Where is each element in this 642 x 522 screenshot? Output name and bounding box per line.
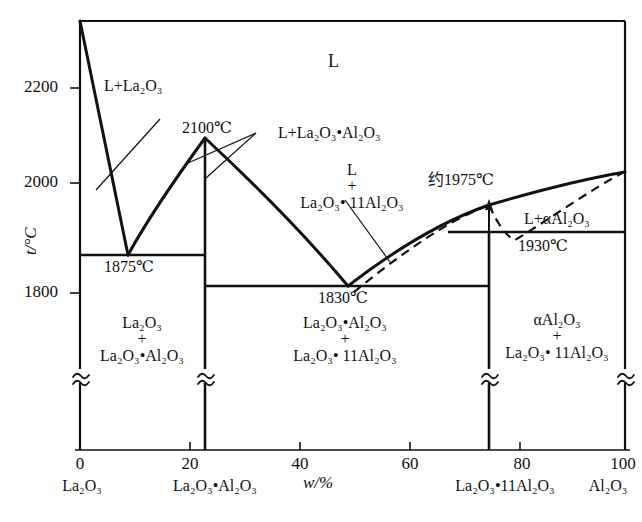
y-tick-label-2200: 2200 <box>24 78 58 95</box>
leader-l-plus-la2o3 <box>96 119 160 190</box>
x-tick-label-80: 80 <box>514 455 531 472</box>
solid-mid-line-1: La₂O₃•Al₂O₃ <box>293 315 396 331</box>
axis-break-marks <box>73 374 634 386</box>
field-label-l-plus-la2o3-11al2o3: L + La₂O₃• 11Al₂O₃ <box>300 162 403 211</box>
x-tick-label-20: 20 <box>182 455 199 472</box>
field-line-1: L <box>300 162 403 178</box>
x-endpoint-left-label: La₂O₃ <box>62 478 102 494</box>
solid-right-line-2: + <box>505 328 608 344</box>
x-endpoint-right-label: Al₂O₃ <box>589 478 628 494</box>
field-label-l-plus-alpha-al2o3: L+αAl₂O₃ <box>524 211 590 227</box>
solid-left-line-3: La₂O₃•Al₂O₃ <box>100 348 184 364</box>
y-tick-label-1800: 1800 <box>24 283 58 300</box>
temp-label-1830: 1830℃ <box>318 290 368 306</box>
x-tick-label-60: 60 <box>402 455 419 472</box>
frame-break-gaps <box>80 369 625 383</box>
solid-right-line-3: La₂O₃• 11Al₂O₃ <box>505 345 608 361</box>
solid-mid-line-2: + <box>293 331 396 347</box>
curve-liquidus-la2o3 <box>80 21 128 255</box>
phase-diagram-figure: t/°C 2200 2000 1800 0 20 40 60 80 100 w/… <box>0 0 642 522</box>
temp-label-2100: 2100℃ <box>182 120 232 136</box>
x-tick-label-0: 0 <box>76 455 85 472</box>
field-label-l-plus-la2o3: L+La₂O₃ <box>104 78 162 94</box>
dashed-branch-upper <box>489 172 624 240</box>
x-tick-label-100: 100 <box>610 455 636 472</box>
leader-l-lal-b <box>206 133 256 178</box>
field-label-liquid: L <box>328 52 339 70</box>
y-tick-label-2000: 2000 <box>24 173 58 190</box>
x-axis <box>75 442 630 450</box>
x-compound-1-label: La₂O₃•Al₂O₃ <box>173 478 257 494</box>
field-label-l-plus-la2o3-al2o3: L+La₂O₃•Al₂O₃ <box>278 125 381 141</box>
y-axis-title: t/°C <box>22 227 39 255</box>
x-axis-title: w/% <box>303 474 333 491</box>
temp-label-1875: 1875℃ <box>104 259 154 275</box>
field-label-solid-left: La₂O₃ + La₂O₃•Al₂O₃ <box>100 315 184 364</box>
field-line-3: La₂O₃• 11Al₂O₃ <box>300 195 403 211</box>
curve-liquidus-lal-left <box>128 138 205 255</box>
x-tick-label-40: 40 <box>292 455 309 472</box>
x-compound-2-label: La₂O₃•11Al₂O₃ <box>455 478 554 494</box>
break-squiggle-mid2-a <box>482 374 498 379</box>
solid-right-line-1: αAl₂O₃ <box>505 312 608 328</box>
field-label-solid-right: αAl₂O₃ + La₂O₃• 11Al₂O₃ <box>505 312 608 361</box>
dashed-branch-lower <box>354 205 489 292</box>
break-squiggle-mid1-a <box>198 374 214 379</box>
solid-mid-line-3: La₂O₃• 11Al₂O₃ <box>293 348 396 364</box>
field-line-2: + <box>300 178 403 194</box>
phase-diagram-svg <box>0 0 642 522</box>
y-axis-ticks <box>70 88 80 293</box>
solid-left-line-2: + <box>100 331 184 347</box>
temp-label-approx-1975: 约1975℃ <box>428 172 494 188</box>
field-label-solid-middle: La₂O₃•Al₂O₃ + La₂O₃• 11Al₂O₃ <box>293 315 396 364</box>
temp-label-1930: 1930℃ <box>518 238 568 254</box>
solid-left-line-1: La₂O₃ <box>100 315 184 331</box>
